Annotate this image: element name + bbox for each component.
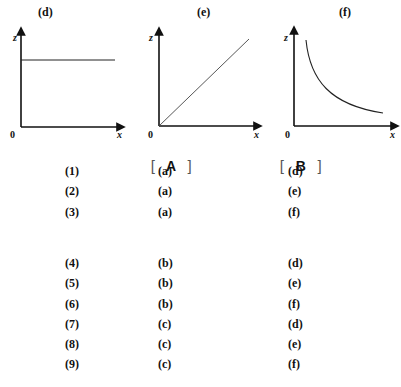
x-axis-label: x: [117, 129, 122, 140]
option-a: (b): [158, 276, 173, 291]
option-a: (a): [158, 164, 172, 179]
table-row: (8) (c) (e): [0, 337, 401, 357]
option-b: (d): [288, 256, 303, 271]
table-row: (2) (a) (e): [0, 184, 401, 204]
option-number: (6): [65, 297, 79, 312]
option-number: (4): [65, 256, 79, 271]
option-a: (a): [158, 205, 172, 220]
option-b: (d): [288, 317, 303, 332]
option-a: (a): [158, 184, 172, 199]
x-axis-label: x: [254, 129, 259, 140]
graph-e-plot: [130, 0, 270, 140]
table-row: (7) (c) (d): [0, 317, 401, 337]
origin-label: 0: [148, 129, 153, 140]
table-row: (9) (c) (f): [0, 357, 401, 377]
option-number: (1): [65, 164, 79, 179]
table-row: (5) (b) (e): [0, 276, 401, 296]
option-b: (e): [288, 184, 301, 199]
option-a: (b): [158, 256, 173, 271]
table-row: (1) (a) (d): [0, 164, 401, 184]
graph-d: (d) z 0 x: [0, 0, 140, 140]
option-number: (5): [65, 276, 79, 291]
option-number: (9): [65, 357, 79, 372]
x-axis-label: x: [390, 129, 395, 140]
option-number: (7): [65, 317, 79, 332]
table-row: (3) (a) (f): [0, 205, 401, 225]
option-b: (d): [288, 164, 303, 179]
graph-f-plot: [260, 0, 401, 140]
option-number: (8): [65, 337, 79, 352]
option-a: (b): [158, 297, 173, 312]
graph-e: (e) z 0 x: [130, 0, 270, 140]
option-number: (2): [65, 184, 79, 199]
option-a: (c): [158, 337, 171, 352]
option-a: (c): [158, 357, 171, 372]
y-axis-label: z: [149, 32, 153, 43]
y-axis-label: z: [13, 32, 17, 43]
table-row: (4) (b) (d): [0, 256, 401, 276]
graph-f: (f) z 0 x: [260, 0, 400, 140]
option-b: (f): [288, 297, 300, 312]
y-axis-label: z: [284, 32, 288, 43]
table-row: (6) (b) (f): [0, 297, 401, 317]
origin-label: 0: [285, 129, 290, 140]
option-b: (f): [288, 357, 300, 372]
option-b: (e): [288, 337, 301, 352]
graph-d-plot: [0, 0, 140, 140]
origin-label: 0: [10, 129, 15, 140]
option-b: (e): [288, 276, 301, 291]
option-number: (3): [65, 205, 79, 220]
option-a: (c): [158, 317, 171, 332]
option-b: (f): [288, 205, 300, 220]
